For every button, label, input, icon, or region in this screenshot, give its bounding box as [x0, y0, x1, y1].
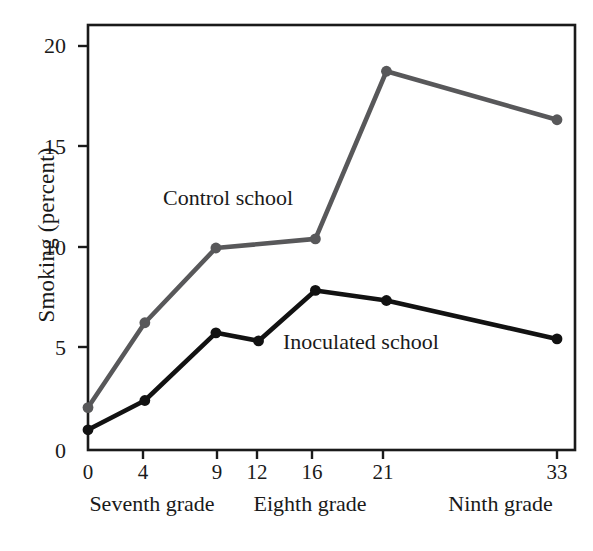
series-inoculated-school — [83, 285, 563, 435]
data-point — [211, 243, 222, 254]
data-point — [139, 317, 150, 328]
data-point — [139, 395, 150, 406]
data-point — [552, 114, 563, 125]
data-point — [83, 402, 94, 413]
series-line — [88, 71, 557, 407]
data-point — [381, 295, 392, 306]
x-tick-marks — [143, 450, 557, 459]
plot-area — [0, 0, 593, 551]
smoking-line-chart: Smoking (percent) 20 15 10 5 0 0 4 9 12 … — [0, 0, 593, 551]
data-point — [310, 234, 321, 245]
y-tick-marks — [78, 46, 88, 347]
data-point — [83, 424, 94, 435]
data-point — [253, 336, 264, 347]
data-point — [211, 327, 222, 338]
data-point — [552, 334, 563, 345]
data-point — [310, 285, 321, 296]
data-point — [381, 66, 392, 77]
series-layer — [83, 66, 563, 435]
series-control-school — [83, 66, 563, 413]
